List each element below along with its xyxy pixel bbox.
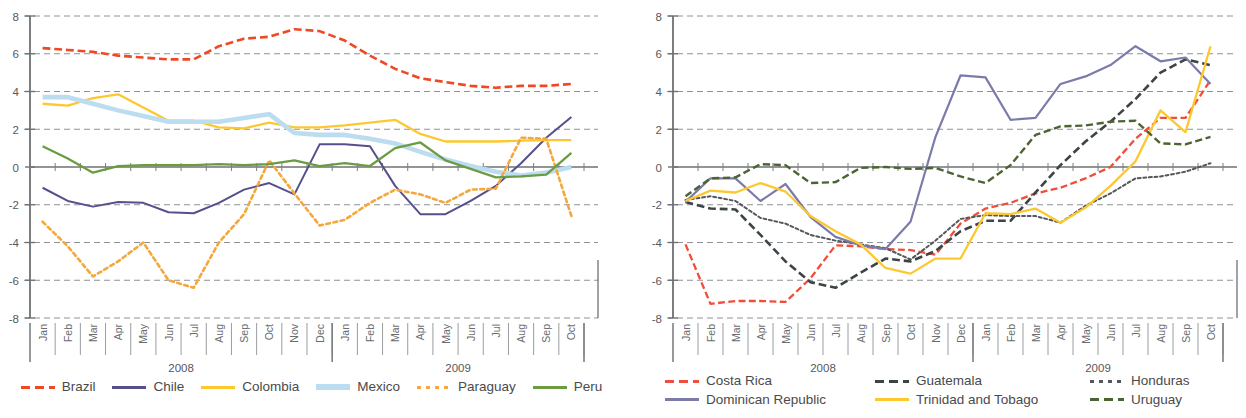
x-axis-month-label: Jun (1105, 324, 1117, 341)
legend-label: Guatemala (916, 374, 982, 388)
x-axis-month-label: Feb (705, 324, 717, 342)
x-axis-month-label: Jan (980, 324, 992, 341)
plot-area-right: 86420-2-4-6-8JanFebMarAprMayJunJulAugSep… (623, 0, 1246, 372)
y-axis-tick-label: 4 (13, 86, 20, 98)
x-axis-month-label: Jun (163, 324, 175, 341)
y-axis-tick-label: 2 (656, 124, 662, 136)
x-axis-month-label: Aug (213, 324, 225, 343)
x-axis-month-label: Nov (288, 323, 300, 342)
x-axis-month-label: Jan (680, 324, 692, 341)
legend-item-paraguay: Paraguay (417, 380, 516, 394)
x-axis-month-label: Apr (1055, 324, 1067, 341)
x-axis-year-label: 2008 (810, 362, 836, 372)
chart-panel-south-america: 86420-2-4-6-8JanFebMarAprMayJunJulAugSep… (0, 0, 623, 418)
x-axis-year-label: 2009 (445, 362, 471, 372)
legend-swatch-icon (417, 386, 451, 389)
y-axis-tick-label: 6 (656, 48, 662, 60)
x-axis-month-label: Feb (1005, 324, 1017, 342)
legend-label: Mexico (357, 380, 400, 394)
x-axis-month-label: Oct (905, 324, 917, 340)
legend-item-mexico: Mexico (316, 380, 400, 394)
x-axis-month-label: Jul (490, 324, 502, 337)
legend-left: BrazilChileColombiaMexicoParaguayPeru (0, 380, 623, 394)
y-axis-tick-label: -2 (9, 199, 19, 211)
dual-line-chart-figure: 86420-2-4-6-8JanFebMarAprMayJunJulAugSep… (0, 0, 1246, 418)
legend-item-brazil: Brazil (21, 380, 96, 394)
x-axis-year-label: 2009 (1085, 362, 1111, 372)
y-axis-tick-label: -4 (9, 237, 20, 249)
legend-swatch-icon (1090, 380, 1124, 383)
y-axis-tick-label: 2 (13, 124, 19, 136)
legend-label: Honduras (1131, 374, 1190, 388)
y-axis-tick-label: -4 (652, 237, 663, 249)
x-axis-month-label: Dec (314, 324, 326, 343)
y-axis-tick-label: 0 (13, 162, 19, 174)
legend-swatch-icon (875, 398, 909, 401)
legend-swatch-icon (533, 386, 567, 389)
y-axis-tick-label: -8 (652, 313, 662, 325)
x-axis-month-label: Jun (465, 324, 477, 341)
legend-swatch-icon (1090, 398, 1124, 401)
y-axis-tick-label: -8 (9, 313, 19, 325)
x-axis-month-label: Nov (930, 323, 942, 342)
x-axis-month-label: Oct (565, 324, 577, 340)
legend-swatch-icon (316, 384, 350, 390)
series-line-honduras (686, 163, 1211, 259)
x-axis-month-label: Jan (37, 324, 49, 341)
legend-right: Costa RicaGuatemalaHondurasDominican Rep… (641, 374, 1246, 406)
y-axis-tick-label: 0 (656, 162, 662, 174)
y-axis-tick-label: 8 (656, 11, 662, 23)
legend-label: Dominican Republic (706, 393, 826, 407)
x-axis-month-label: May (440, 323, 452, 344)
legend-label: Costa Rica (706, 374, 772, 388)
x-axis-month-label: Aug (855, 324, 867, 343)
x-axis-month-label: Oct (263, 324, 275, 340)
legend-label: Brazil (62, 380, 96, 394)
legend-item-trinidad-and-tobago: Trinidad and Tobago (875, 393, 1090, 407)
x-axis-month-label: Aug (515, 324, 527, 343)
legend-label: Trinidad and Tobago (916, 393, 1038, 407)
legend-label: Paraguay (458, 380, 516, 394)
legend-item-guatemala: Guatemala (875, 374, 1090, 388)
legend-swatch-icon (665, 398, 699, 401)
legend-label: Chile (153, 380, 184, 394)
legend-label: Peru (574, 380, 603, 394)
legend-swatch-icon (21, 386, 55, 389)
legend-item-colombia: Colombia (201, 380, 299, 394)
x-axis-year-label: 2008 (168, 362, 194, 372)
x-axis-month-label: Jul (1130, 324, 1142, 337)
y-axis-tick-label: 8 (13, 11, 19, 23)
legend-label: Uruguay (1131, 393, 1182, 407)
x-axis-month-label: Feb (364, 324, 376, 342)
x-axis-month-label: Jan (339, 324, 351, 341)
x-axis-month-label: May (137, 323, 149, 344)
legend-swatch-icon (665, 380, 699, 383)
x-axis-month-label: Sep (1180, 324, 1192, 343)
x-axis-month-label: May (780, 323, 792, 344)
series-line-costa-rica (686, 80, 1211, 304)
legend-swatch-icon (201, 386, 235, 389)
x-axis-month-label: Mar (389, 324, 401, 343)
x-axis-month-label: Sep (880, 324, 892, 343)
line-chart-svg-right: 86420-2-4-6-8JanFebMarAprMayJunJulAugSep… (623, 0, 1246, 372)
legend-item-costa-rica: Costa Rica (665, 374, 875, 388)
x-axis-month-label: Jul (830, 324, 842, 337)
x-axis-month-label: Jun (805, 324, 817, 341)
legend-item-dominican-republic: Dominican Republic (665, 393, 875, 407)
x-axis-month-label: Apr (112, 324, 124, 341)
x-axis-month-label: Jul (188, 324, 200, 337)
chart-panel-central-america-caribbean: 86420-2-4-6-8JanFebMarAprMayJunJulAugSep… (623, 0, 1246, 418)
x-axis-month-label: Aug (1155, 324, 1167, 343)
x-axis-month-label: Sep (540, 324, 552, 343)
x-axis-month-label: Apr (414, 324, 426, 341)
legend-item-honduras: Honduras (1090, 374, 1240, 388)
y-axis-tick-label: 4 (656, 86, 663, 98)
x-axis-month-label: Mar (1030, 324, 1042, 343)
x-axis-month-label: Dec (955, 324, 967, 343)
legend-label: Colombia (242, 380, 299, 394)
x-axis-month-label: Apr (755, 324, 767, 341)
series-line-brazil (43, 29, 572, 88)
y-axis-tick-label: -6 (652, 275, 662, 287)
series-line-guatemala (686, 59, 1211, 287)
line-chart-svg-left: 86420-2-4-6-8JanFebMarAprMayJunJulAugSep… (0, 0, 623, 372)
